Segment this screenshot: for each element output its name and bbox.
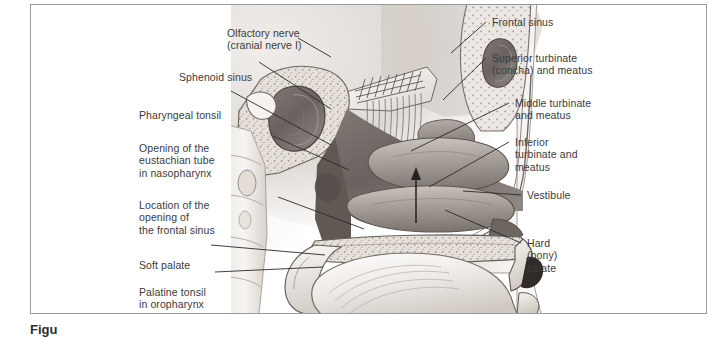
label-olfactory-nerve: Olfactory nerve (cranial nerve I) xyxy=(227,27,302,52)
label-vestibule: Vestibule xyxy=(527,189,571,201)
label-palatine-tonsil: Palatine tonsil in oropharynx xyxy=(139,286,206,311)
figure-frame: Olfactory nerve (cranial nerve I) Spheno… xyxy=(30,4,707,314)
label-superior-turbinate: Superior turbinate (concha) and meatus xyxy=(492,52,593,77)
label-soft-palate: Soft palate xyxy=(139,259,190,271)
label-eustachian-tube: Opening of the eustachian tube in nasoph… xyxy=(139,142,215,179)
anatomy-illustration xyxy=(231,5,707,314)
label-sphenoid-sinus: Sphenoid sinus xyxy=(179,71,252,83)
label-frontal-sinus-opening: Location of the opening of the frontal s… xyxy=(139,199,215,236)
label-pharyngeal-tonsil: Pharyngeal tonsil xyxy=(139,109,221,121)
figure-caption: Figu xyxy=(30,322,57,337)
label-hard-palate: Hard (bony) palate xyxy=(527,237,557,274)
label-middle-turbinate: Middle turbinate and meatus xyxy=(515,97,591,122)
label-inferior-turbinate: Inferior turbinate and meatus xyxy=(515,136,578,173)
label-frontal-sinus: Frontal sinus xyxy=(492,16,553,28)
